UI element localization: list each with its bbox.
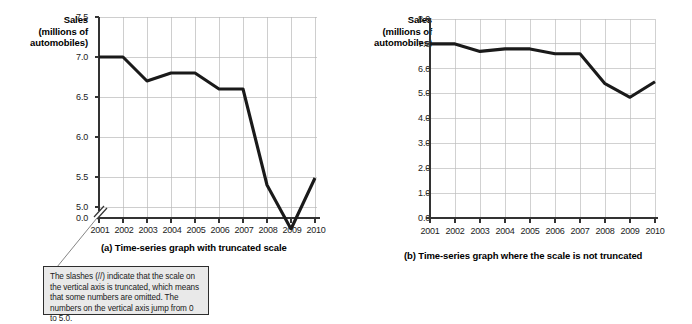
data-line-b <box>430 44 655 97</box>
y-tick-a-3: 6.0 <box>64 132 88 142</box>
plot-area-b <box>424 10 666 232</box>
x-tick-marks-b <box>430 218 655 223</box>
y-tick-a-0: 7.5 <box>64 12 88 22</box>
callout-note-text: The slashes (//) indicate that the scale… <box>50 272 202 324</box>
y-axis-title-a-line2: (millions of <box>6 26 88 38</box>
y-axis-title-b-line2: (millions of <box>350 26 432 38</box>
callout-note: The slashes (//) indicate that the scale… <box>43 266 209 315</box>
y-tick-a-5: 5.0 <box>64 202 88 212</box>
chart-panel-b: Sales (millions of automobiles) 8.0 7.0 … <box>350 0 692 324</box>
caption-b: (b) Time-series graph where the scale is… <box>404 250 642 261</box>
gridlines-vertical-a <box>123 17 315 218</box>
x-tick-a-9: 2010 <box>300 225 332 235</box>
figure-two-time-series-graphs: Sales (millions of automobiles) 7.5 7.0 … <box>0 0 692 324</box>
data-line-a <box>99 57 315 229</box>
plot-area-a <box>92 8 332 230</box>
x-tick-b-9: 2010 <box>639 226 671 236</box>
y-axis-title-a-line3: automobiles) <box>6 37 88 49</box>
y-tick-a-2: 6.5 <box>64 92 88 102</box>
y-tick-a-4: 5.5 <box>64 172 88 182</box>
gridlines-horizontal-a <box>99 17 317 207</box>
y-tick-a-1: 7.0 <box>64 52 88 62</box>
